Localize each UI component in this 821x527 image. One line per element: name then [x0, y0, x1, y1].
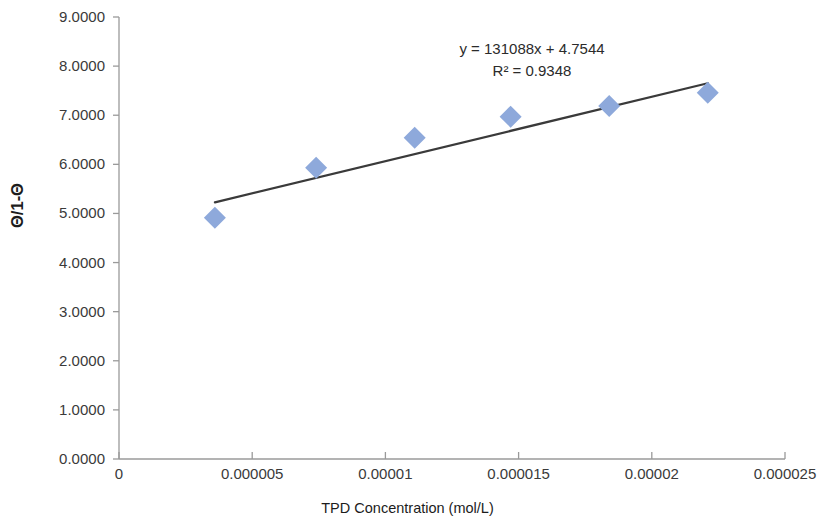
data-point-marker	[204, 207, 226, 229]
axis-lines	[119, 17, 785, 459]
trendline	[215, 83, 708, 202]
data-point-markers	[204, 82, 719, 229]
axis-ticks	[113, 17, 785, 459]
data-point-marker	[500, 106, 522, 128]
trendline-path	[215, 83, 708, 202]
data-point-marker	[598, 95, 620, 117]
data-point-marker	[404, 127, 426, 149]
